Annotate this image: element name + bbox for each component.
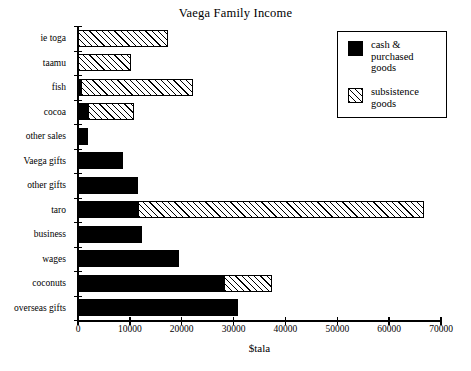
y-axis-tick bbox=[74, 149, 82, 150]
bar-segment-subsistence-goods bbox=[78, 54, 131, 71]
x-axis-tick-label: 60000 bbox=[377, 324, 401, 334]
y-axis-label-taro: taro bbox=[51, 205, 66, 215]
y-axis-label-wages: wages bbox=[42, 254, 66, 264]
x-axis-tick-label: 10000 bbox=[118, 324, 142, 334]
bar-segment-cash-purchased-goods bbox=[78, 177, 138, 194]
x-axis-tick-label: 50000 bbox=[325, 324, 349, 334]
y-axis-tick bbox=[74, 124, 82, 125]
y-axis-tick bbox=[74, 173, 82, 174]
x-axis-tick-label: 40000 bbox=[274, 324, 298, 334]
y-axis-label-fish: fish bbox=[52, 82, 66, 92]
bar-segment-cash-purchased-goods bbox=[78, 128, 88, 145]
y-axis-label-other-gifts: other gifts bbox=[27, 180, 66, 190]
chart-container: Vaega Family Income ie togataamufishcoco… bbox=[0, 0, 471, 371]
x-axis-tick-label: 0 bbox=[76, 324, 81, 334]
y-axis-tick bbox=[74, 296, 82, 297]
bar-segment-subsistence-goods bbox=[224, 275, 272, 292]
y-axis-label-business: business bbox=[34, 229, 66, 239]
y-axis-tick bbox=[74, 271, 82, 272]
bar-segment-subsistence-goods bbox=[138, 201, 425, 218]
bar-segment-cash-purchased-goods bbox=[78, 226, 142, 243]
x-axis-title: $tala bbox=[78, 342, 441, 354]
y-axis-label-overseas-gifts: overseas gifts bbox=[14, 303, 66, 313]
y-axis-tick bbox=[74, 100, 82, 101]
x-axis-tick-label: 30000 bbox=[222, 324, 246, 334]
bar-segment-cash-purchased-goods bbox=[78, 299, 238, 316]
y-axis-label-vaega-gifts: Vaega gifts bbox=[24, 156, 66, 166]
bar-segment-cash-purchased-goods bbox=[78, 201, 138, 218]
legend-label: cash & purchased goods bbox=[371, 39, 414, 74]
y-axis-label-cocoa: cocoa bbox=[44, 107, 66, 117]
y-axis-tick bbox=[74, 26, 82, 27]
y-axis-category-labels: ie togataamufishcocoaother salesVaega gi… bbox=[0, 26, 72, 320]
bar-segment-subsistence-goods bbox=[88, 103, 134, 120]
y-axis-label-coconuts: coconuts bbox=[32, 278, 66, 288]
y-axis-tick bbox=[74, 51, 82, 52]
solid-black-swatch bbox=[348, 41, 363, 56]
y-axis-label-ie-toga: ie toga bbox=[40, 33, 66, 43]
bar-segment-cash-purchased-goods bbox=[78, 250, 179, 267]
bar-segment-subsistence-goods bbox=[78, 30, 168, 47]
y-axis-label-other-sales: other sales bbox=[26, 131, 66, 141]
chart-title: Vaega Family Income bbox=[0, 6, 471, 21]
y-axis-tick bbox=[74, 222, 82, 223]
y-axis-tick bbox=[74, 247, 82, 248]
x-axis-tick-label: 20000 bbox=[170, 324, 194, 334]
chart-legend: cash & purchased goodssubsistence goods bbox=[337, 31, 447, 118]
y-axis-tick bbox=[74, 198, 82, 199]
y-axis-tick bbox=[74, 75, 82, 76]
y-axis-label-taamu: taamu bbox=[43, 58, 66, 68]
bar-segment-subsistence-goods bbox=[81, 79, 193, 96]
bar-segment-cash-purchased-goods bbox=[78, 103, 88, 120]
bar-segment-cash-purchased-goods bbox=[78, 152, 123, 169]
hatched-swatch bbox=[348, 88, 363, 103]
x-axis-line bbox=[77, 320, 441, 322]
bar-segment-cash-purchased-goods bbox=[78, 275, 224, 292]
x-axis-tick-label: 70000 bbox=[429, 324, 453, 334]
legend-label: subsistence goods bbox=[371, 86, 419, 109]
x-axis-tick-labels: 010000200003000040000500006000070000 bbox=[0, 324, 471, 340]
